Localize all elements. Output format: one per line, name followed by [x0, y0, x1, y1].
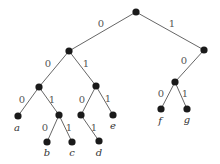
leaf-labels: abcdefg — [14, 114, 190, 158]
internal-node — [200, 46, 207, 53]
edge-bit-label: 0 — [79, 94, 85, 105]
leaf-label-d: d — [96, 147, 102, 158]
internal-node — [65, 47, 72, 54]
leaf-label-g: g — [184, 114, 190, 125]
edge-bit-label: 0 — [19, 94, 25, 105]
leaf-node-c — [68, 138, 75, 145]
leaf-node-g — [183, 105, 190, 112]
edge-bit-label: 1 — [83, 58, 89, 69]
edge-bit-label: 1 — [182, 88, 188, 99]
edge-bit-label: 1 — [169, 18, 175, 29]
edge-bit-label: 1 — [91, 122, 97, 133]
internal-node — [132, 8, 139, 15]
leaf-node-f — [157, 105, 164, 112]
edge-bit-label: 1 — [49, 94, 55, 105]
internal-node — [92, 82, 99, 89]
leaf-label-e: e — [110, 120, 116, 131]
leaf-label-c: c — [69, 147, 75, 158]
edge-bit-label: 1 — [66, 122, 72, 133]
leaf-label-a: a — [14, 122, 20, 133]
leaf-node-b — [43, 138, 50, 145]
leaf-node-a — [14, 112, 21, 119]
leaf-node-e — [109, 111, 116, 118]
internal-node — [77, 111, 84, 118]
internal-node — [55, 111, 62, 118]
edge-bit-label: 0 — [45, 58, 51, 69]
internal-node — [171, 78, 178, 85]
edge-bit-labels: 01010010101011 — [19, 18, 188, 133]
edge-bit-label: 0 — [42, 122, 48, 133]
leaf-label-b: b — [44, 147, 50, 158]
edge-bit-label: 1 — [105, 93, 111, 104]
internal-node — [35, 83, 42, 90]
tree-edge — [39, 51, 69, 87]
edge-bit-label: 0 — [181, 55, 187, 66]
tree-edge — [47, 115, 59, 142]
edge-bit-label: 0 — [98, 18, 104, 29]
edge-bit-label: 0 — [158, 88, 164, 99]
leaf-node-d — [95, 137, 102, 144]
tree-edge — [175, 50, 204, 82]
binary-code-tree: 01010010101011 abcdefg — [0, 0, 220, 164]
leaf-label-f: f — [157, 115, 164, 126]
